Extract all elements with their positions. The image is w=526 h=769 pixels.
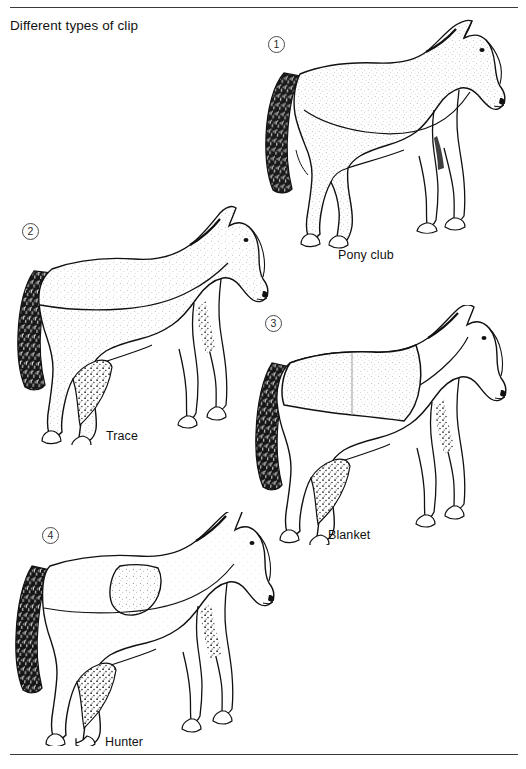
- horse-illustration-trace: [0, 205, 280, 445]
- figure-caption-2: Trace: [106, 429, 138, 443]
- figure-caption-1: Pony club: [338, 248, 394, 262]
- horse-foreleg-far: [417, 402, 436, 518]
- page-bottom-rule: [10, 754, 518, 755]
- horse-illustration-pony-club: [248, 18, 526, 258]
- page-top-rule: [10, 7, 518, 8]
- figure-number-badge-3: 3: [265, 315, 282, 332]
- horse-clip-shading: [434, 399, 455, 453]
- figure-caption-3: Blanket: [328, 528, 370, 542]
- horse-foreleg-far: [179, 303, 198, 419]
- horse-eye: [244, 238, 249, 242]
- horse-hoof: [182, 719, 201, 732]
- illustration-page: Different types of clip: [0, 0, 526, 769]
- horse-illustration-hunter: [6, 512, 296, 746]
- horse-hoof: [416, 515, 435, 527]
- horse-hoof: [178, 416, 197, 428]
- figure-caption-4: Hunter: [105, 735, 143, 749]
- horse-body: [294, 20, 505, 240]
- horse-body: [43, 512, 274, 744]
- horse-eye: [482, 336, 487, 340]
- horse-eye: [250, 541, 255, 545]
- horse-hoof: [329, 236, 348, 248]
- horse-foreleg-near: [444, 90, 465, 221]
- page-title: Different types of clip: [10, 18, 138, 33]
- horse-stifle-line: [296, 150, 308, 175]
- figure-number-badge-2: 2: [22, 223, 39, 240]
- horse-clip-shading: [200, 604, 222, 658]
- horse-illustration-blanket: [244, 305, 526, 545]
- figure-number-badge-1: 1: [268, 36, 285, 53]
- figure-number-badge-4: 4: [42, 527, 59, 544]
- horse-body: [277, 305, 506, 540]
- horse-hoof: [417, 223, 437, 233]
- horse-body: [39, 207, 268, 442]
- horse-clip-shading: [196, 301, 216, 353]
- horse-eye: [479, 48, 484, 52]
- horse-hoof: [445, 218, 465, 230]
